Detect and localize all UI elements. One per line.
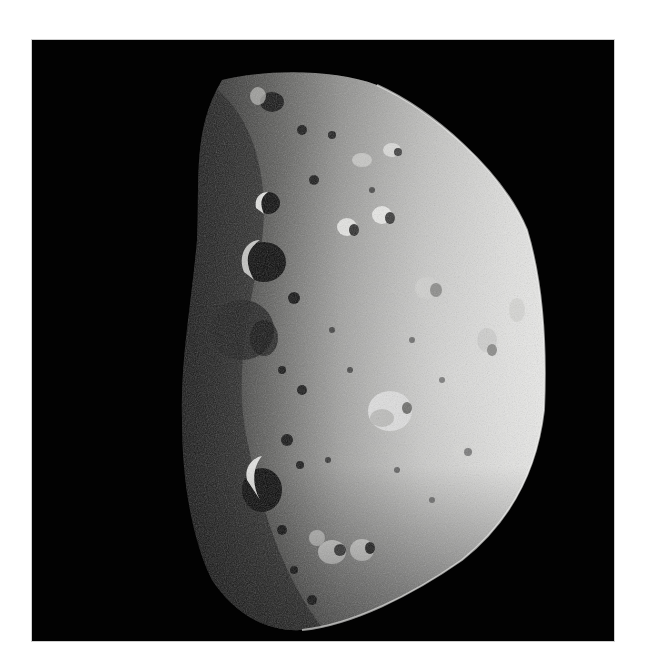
space-photo-frame bbox=[32, 40, 614, 641]
asteroid-body bbox=[152, 60, 572, 640]
asteroid-photo bbox=[32, 40, 614, 641]
